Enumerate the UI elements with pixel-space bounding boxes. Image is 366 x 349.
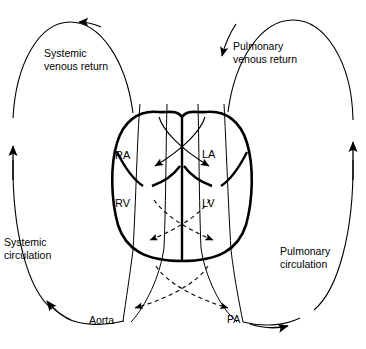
label-aorta: Aorta xyxy=(89,314,114,327)
label-pulmonary-venous-return: Pulmonaryvenous return xyxy=(233,40,297,66)
great-vessel-crossed-arrows xyxy=(135,266,228,308)
dashed-arrow-to-pa xyxy=(156,266,228,308)
circulation-diagram: Systemicvenous return Pulmonaryvenous re… xyxy=(0,0,366,349)
label-right-ventricle: RV xyxy=(115,197,130,211)
label-pulmonary-circulation: Pulmonarycirculation xyxy=(280,245,330,271)
aorta-wall-right xyxy=(131,104,167,322)
pa-wall-right xyxy=(224,104,243,322)
aorta-wall-left xyxy=(123,104,140,321)
label-systemic-circulation-line2: circulation xyxy=(4,249,51,261)
label-pulmonary-venous-return-line2: venous return xyxy=(233,53,297,65)
pa-wall-left xyxy=(198,104,237,322)
mitral-lateral-leaflet xyxy=(221,152,247,186)
label-systemic-circulation-line1: Systemic xyxy=(4,236,47,248)
label-right-atrium: RA xyxy=(115,149,130,163)
label-systemic-circulation: Systemiccirculation xyxy=(4,236,51,262)
label-pulmonary-artery: PA xyxy=(227,313,240,326)
label-pulmonary-circulation-line1: Pulmonary xyxy=(280,245,330,257)
label-pulmonary-venous-return-line1: Pulmonary xyxy=(233,40,283,52)
pulmonary-loop-lower-arc xyxy=(314,160,353,310)
pulmonary-loop-upper-arc xyxy=(228,20,353,120)
label-left-atrium: LA xyxy=(202,148,215,162)
mitral-septal-leaflet xyxy=(184,166,212,186)
label-left-ventricle: LV xyxy=(202,197,215,211)
systemic-loop-lower-arc xyxy=(13,160,52,309)
label-systemic-venous-return-line1: Systemic xyxy=(44,47,87,59)
label-systemic-venous-return-line2: venous return xyxy=(44,60,108,72)
label-pulmonary-circulation-line2: circulation xyxy=(280,258,327,270)
systemic-outflow-arrow xyxy=(47,301,71,320)
label-systemic-venous-return: Systemicvenous return xyxy=(44,47,108,73)
